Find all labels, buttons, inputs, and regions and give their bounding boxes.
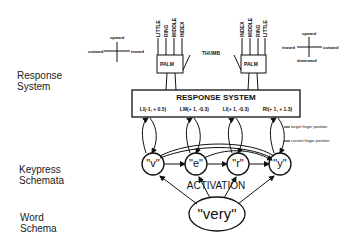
activation-label: ACTIVATION bbox=[180, 180, 252, 191]
target-position: LM(+ 1, -0.3) bbox=[180, 106, 209, 112]
keypress-label: "v" bbox=[142, 157, 164, 169]
target-position: RI(+ 1, + 1.3) bbox=[263, 106, 292, 112]
target-position: LI(+ 1, -0.3) bbox=[223, 106, 249, 112]
target-position: LI(-1, + 0.5) bbox=[140, 106, 166, 112]
finger-label: LITTLE bbox=[155, 20, 161, 37]
target-positions: LI(-1, + 0.5) LM(+ 1, -0.3) LI(+ 1, -0.3… bbox=[133, 106, 299, 112]
target-annotation: target finger position bbox=[291, 124, 327, 129]
keypress-label: "y" bbox=[269, 157, 291, 169]
left-compass-icon bbox=[104, 42, 130, 62]
level-label-response: ResponseSystem bbox=[17, 70, 62, 92]
compass-label: outward bbox=[88, 49, 104, 54]
level-label-keypress: KeypressSchemata bbox=[19, 164, 64, 186]
finger-label: MIDDLE bbox=[247, 18, 253, 37]
level-label-word: WordSchema bbox=[20, 212, 57, 234]
finger-label: MIDDLE bbox=[171, 18, 177, 37]
compass-label: upward bbox=[302, 31, 316, 36]
compass-label: outward bbox=[323, 45, 339, 50]
thumb-label: THUMB bbox=[202, 50, 220, 56]
right-compass-icon bbox=[297, 37, 322, 57]
left-thumb bbox=[183, 55, 190, 70]
word-label: "very" bbox=[189, 205, 245, 222]
response-box-title: RESPONSE SYSTEM bbox=[132, 93, 300, 102]
keypress-label: "e" bbox=[185, 157, 207, 169]
compass-label: inward bbox=[131, 49, 144, 54]
right-thumb bbox=[234, 55, 241, 70]
left-palm-label: PALM bbox=[160, 61, 174, 67]
compass-label: downward bbox=[297, 58, 317, 63]
compass-label: upward bbox=[110, 35, 124, 40]
finger-label: INDEX bbox=[239, 22, 245, 37]
finger-label: INDEX bbox=[179, 22, 185, 37]
finger-label: RING bbox=[163, 25, 169, 38]
finger-label: LITTLE bbox=[262, 20, 268, 37]
current-annotation: current finger position bbox=[291, 138, 329, 143]
compass-label: inward bbox=[282, 45, 295, 50]
finger-label: RING bbox=[255, 25, 261, 38]
right-palm-label: PALM bbox=[244, 61, 258, 67]
keypress-label: "r" bbox=[227, 157, 249, 169]
